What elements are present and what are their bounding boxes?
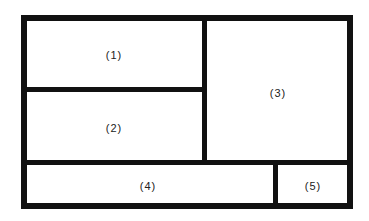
divider-horizontal-bottom-row xyxy=(21,160,353,165)
frame-top xyxy=(21,15,353,21)
region-5-label: (5) xyxy=(305,180,321,192)
region-4-label: (4) xyxy=(140,180,156,192)
frame-left xyxy=(21,15,27,209)
region-2-label: (2) xyxy=(106,122,122,134)
frame-right xyxy=(347,15,353,209)
region-3-label: (3) xyxy=(270,87,286,99)
frame-bottom xyxy=(21,203,353,209)
divider-horizontal-1-2 xyxy=(21,87,207,92)
region-1-label: (1) xyxy=(106,49,122,61)
divider-vertical-4-5 xyxy=(273,160,278,209)
